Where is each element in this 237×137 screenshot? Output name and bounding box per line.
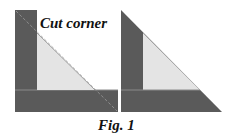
figure-diagram: Cut corner Fig. 1 (0, 0, 237, 137)
cut-corner-label: Cut corner (40, 15, 107, 31)
figure-caption: Fig. 1 (97, 117, 135, 133)
right-panel (121, 10, 222, 112)
dark-triangle (121, 10, 222, 112)
horizontal-strip (15, 90, 118, 112)
